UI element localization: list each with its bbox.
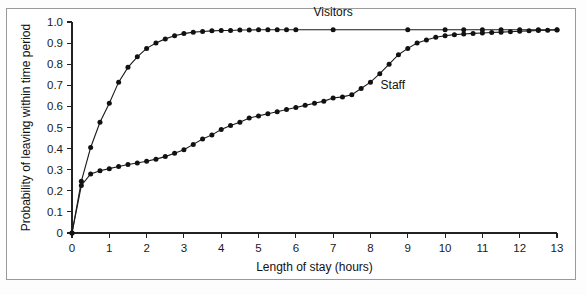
data-point-marker xyxy=(480,30,485,35)
data-point-marker xyxy=(247,28,252,33)
data-point-marker xyxy=(545,28,550,33)
data-point-marker xyxy=(265,111,270,116)
data-point-marker xyxy=(163,154,168,159)
data-point-marker xyxy=(88,171,93,176)
data-point-marker xyxy=(517,29,522,34)
x-tick-label: 10 xyxy=(439,242,452,254)
y-tick-label: 0.7 xyxy=(47,79,63,91)
data-point-marker xyxy=(312,101,317,106)
y-tick-label: 0.6 xyxy=(47,100,63,112)
data-point-marker xyxy=(209,28,214,33)
data-point-marker xyxy=(135,54,140,59)
x-tick-label: 4 xyxy=(218,242,225,254)
data-point-marker xyxy=(116,80,121,85)
x-tick-label: 7 xyxy=(330,242,336,254)
data-point-marker xyxy=(471,31,476,36)
data-point-marker xyxy=(331,27,336,32)
y-tick-label: 1.0 xyxy=(47,16,63,28)
data-point-marker xyxy=(321,99,326,104)
data-point-marker xyxy=(228,123,233,128)
data-point-marker xyxy=(527,28,532,33)
series-line-staff xyxy=(72,30,557,233)
data-point-marker xyxy=(79,183,84,188)
data-point-marker xyxy=(70,231,75,236)
data-point-marker xyxy=(125,162,130,167)
x-tick-label: 13 xyxy=(551,242,564,254)
data-point-marker xyxy=(284,27,289,32)
x-tick-label: 8 xyxy=(367,242,373,254)
data-point-marker xyxy=(97,168,102,173)
x-tick-label: 5 xyxy=(255,242,261,254)
data-point-marker xyxy=(209,132,214,137)
y-tick-label: 0.5 xyxy=(47,122,63,134)
data-point-marker xyxy=(433,35,438,40)
y-tick-label: 0.9 xyxy=(47,37,63,49)
data-point-marker xyxy=(499,30,504,35)
data-point-marker xyxy=(200,29,205,34)
series-visitors xyxy=(70,27,560,235)
data-point-marker xyxy=(228,28,233,33)
data-point-marker xyxy=(368,80,373,85)
data-point-marker xyxy=(107,101,112,106)
y-tick-label: 0.2 xyxy=(47,185,63,197)
data-point-marker xyxy=(293,27,298,32)
data-point-marker xyxy=(424,37,429,42)
data-point-marker xyxy=(359,86,364,91)
series-staff xyxy=(70,28,560,236)
data-point-marker xyxy=(191,142,196,147)
data-point-marker xyxy=(536,28,541,33)
data-point-marker xyxy=(265,27,270,32)
data-point-marker xyxy=(200,137,205,142)
data-point-marker xyxy=(107,166,112,171)
data-point-marker xyxy=(405,46,410,51)
data-point-marker xyxy=(247,116,252,121)
x-tick-label: 0 xyxy=(69,242,75,254)
data-point-marker xyxy=(153,157,158,162)
data-point-marker xyxy=(331,95,336,100)
y-tick-label: 0.4 xyxy=(47,143,64,155)
data-point-marker xyxy=(452,32,457,37)
data-point-marker xyxy=(443,27,448,32)
data-point-marker xyxy=(415,41,420,46)
data-point-marker xyxy=(172,151,177,156)
data-point-marker xyxy=(237,28,242,33)
x-tick-label: 9 xyxy=(405,242,411,254)
series-annotation-staff: Staff xyxy=(381,78,406,92)
y-tick-label: 0 xyxy=(57,227,63,239)
data-point-marker xyxy=(153,41,158,46)
data-point-marker xyxy=(237,120,242,125)
data-point-marker xyxy=(303,103,308,108)
data-point-marker xyxy=(555,28,560,33)
data-point-marker xyxy=(256,113,261,118)
data-point-marker xyxy=(97,120,102,125)
x-tick-label: 2 xyxy=(143,242,149,254)
series-line-visitors xyxy=(72,30,557,233)
data-point-marker xyxy=(219,28,224,33)
data-point-marker xyxy=(508,29,513,34)
x-tick-label: 11 xyxy=(476,242,488,254)
data-point-marker xyxy=(275,109,280,114)
data-point-marker xyxy=(284,107,289,112)
data-point-marker xyxy=(396,52,401,57)
y-tick-label: 0.1 xyxy=(47,206,63,218)
line-chart: 00.10.20.30.40.50.60.70.80.91.0012345678… xyxy=(0,0,586,295)
data-point-marker xyxy=(387,62,392,67)
data-point-marker xyxy=(144,46,149,51)
figure-root: 00.10.20.30.40.50.60.70.80.91.0012345678… xyxy=(0,0,586,295)
x-tick-label: 6 xyxy=(293,242,299,254)
data-point-marker xyxy=(293,105,298,110)
data-point-marker xyxy=(181,31,186,36)
data-point-marker xyxy=(116,164,121,169)
data-point-marker xyxy=(377,71,382,76)
data-point-marker xyxy=(172,33,177,38)
y-axis-title: Probability of leaving within time perio… xyxy=(19,24,33,231)
data-point-marker xyxy=(88,145,93,150)
data-point-marker xyxy=(125,65,130,70)
data-point-marker xyxy=(219,127,224,132)
data-point-marker xyxy=(340,94,345,99)
x-tick-label: 3 xyxy=(181,242,187,254)
data-point-marker xyxy=(461,32,466,37)
data-point-marker xyxy=(163,36,168,41)
x-tick-label: 12 xyxy=(513,242,526,254)
data-point-marker xyxy=(191,30,196,35)
